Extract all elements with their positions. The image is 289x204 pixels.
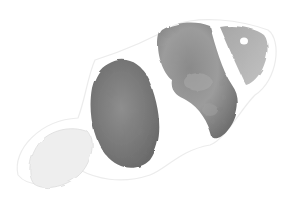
tail-fin <box>30 129 92 188</box>
clownfish-illustration <box>0 0 289 204</box>
eye-highlight-icon <box>240 38 248 45</box>
head <box>220 26 268 85</box>
clownfish-svg <box>0 0 289 204</box>
mid-body <box>91 60 160 168</box>
